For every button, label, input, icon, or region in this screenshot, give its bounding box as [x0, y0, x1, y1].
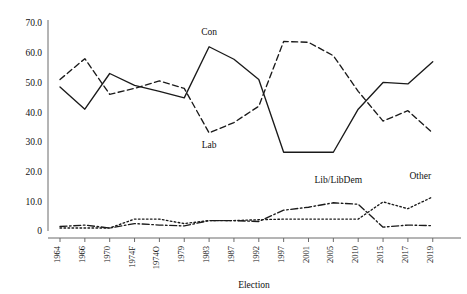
series-line-other: [60, 197, 433, 228]
series-annotations: ConLabLib/LibDemOther: [201, 27, 432, 186]
x-tick-label: 1983: [201, 246, 211, 263]
x-tick-label: 1997: [276, 246, 286, 263]
x-tick-label: 1966: [77, 246, 87, 263]
series-line-con: [60, 47, 433, 152]
y-tick-label: 50.0: [25, 78, 42, 88]
y-tick-label: 60.0: [25, 48, 42, 58]
x-tick-marks: [60, 238, 433, 242]
series-lines: [60, 41, 433, 228]
y-tick-label: 10.0: [25, 197, 42, 207]
x-tick-label: 2001: [301, 246, 311, 263]
x-tick-label: 1970: [102, 246, 112, 263]
x-tick-label: 1974O: [151, 246, 161, 269]
x-tick-label: 1964: [52, 245, 62, 263]
chart-canvas: 010.020.030.040.050.060.070.0 1964196619…: [0, 0, 467, 294]
x-tick-label: 1979: [176, 246, 186, 263]
y-tick-label: 30.0: [25, 137, 42, 147]
y-tick-labels: 010.020.030.040.050.060.070.0: [25, 18, 42, 236]
series-line-lib-libdem: [60, 203, 433, 228]
x-tick-label: 1987: [226, 246, 236, 263]
y-tick-label: 70.0: [25, 18, 42, 28]
series-line-lab: [60, 41, 433, 133]
x-tick-labels: 1964196619701974F1974O197919831987199219…: [52, 245, 435, 269]
x-tick-label: 2019: [425, 246, 435, 263]
y-tick-label: 20.0: [25, 167, 42, 177]
election-line-chart: 010.020.030.040.050.060.070.0 1964196619…: [0, 0, 467, 294]
x-tick-label: 2010: [350, 246, 360, 263]
series-annotation: Lib/LibDem: [315, 175, 363, 185]
x-tick-label: 2017: [400, 246, 410, 263]
x-tick-label: 1992: [251, 246, 261, 263]
y-tick-label: 0: [37, 226, 42, 236]
series-annotation: Con: [201, 27, 217, 37]
series-annotation: Lab: [202, 140, 217, 150]
x-tick-label: 2005: [325, 246, 335, 263]
x-tick-label: 2015: [375, 246, 385, 263]
x-axis-title: Election: [238, 280, 270, 290]
x-tick-label: 1974F: [127, 246, 137, 268]
series-annotation: Other: [410, 171, 432, 181]
y-tick-label: 40.0: [25, 108, 42, 118]
